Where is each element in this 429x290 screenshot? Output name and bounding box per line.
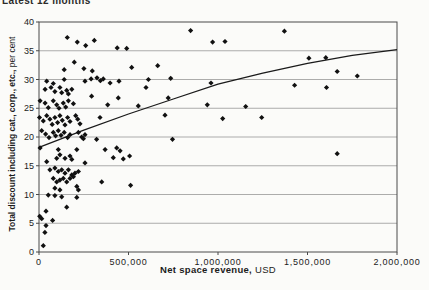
data-point: [105, 102, 110, 107]
data-point: [170, 137, 175, 142]
data-point: [71, 101, 76, 106]
data-point: [92, 38, 97, 43]
data-point: [89, 76, 94, 81]
data-point: [74, 147, 79, 152]
data-point: [46, 105, 51, 110]
data-point: [65, 35, 70, 40]
data-point: [118, 148, 123, 153]
y-tick-label: 5: [29, 218, 34, 228]
y-tick-label: 0: [29, 247, 34, 257]
data-point: [114, 145, 119, 150]
data-point: [94, 137, 99, 142]
data-point: [136, 103, 141, 108]
data-point: [62, 77, 67, 82]
data-point: [81, 66, 86, 71]
data-point: [41, 118, 46, 123]
data-point: [47, 117, 52, 122]
data-point: [116, 95, 121, 100]
data-point: [69, 87, 74, 92]
data-point: [48, 85, 53, 90]
data-point: [60, 118, 65, 123]
data-point: [282, 29, 287, 34]
data-point: [220, 116, 225, 121]
data-point: [52, 193, 57, 198]
data-point: [61, 101, 66, 106]
data-point: [335, 69, 340, 74]
data-point: [121, 156, 126, 161]
data-point: [89, 94, 94, 99]
data-point: [38, 98, 43, 103]
data-point: [97, 115, 102, 120]
data-point: [66, 167, 71, 172]
y-tick-label: 40: [24, 17, 34, 27]
data-point: [77, 121, 82, 126]
data-point: [56, 147, 61, 152]
data-point: [62, 156, 67, 161]
data-point: [66, 98, 71, 103]
data-point: [115, 45, 120, 50]
x-axis-label-bold: Net space revenue,: [160, 264, 252, 275]
data-point: [306, 56, 311, 61]
y-tick-label: 15: [24, 161, 34, 171]
data-point: [54, 156, 59, 161]
data-point: [46, 193, 51, 198]
trend-line: [39, 50, 397, 148]
data-point: [43, 101, 48, 106]
data-point: [59, 90, 64, 95]
data-point: [72, 60, 77, 65]
data-point: [42, 230, 47, 235]
data-point: [124, 46, 129, 51]
data-point: [52, 186, 57, 191]
data-point: [111, 155, 116, 160]
data-point: [59, 194, 64, 199]
y-tick-label: 30: [24, 75, 34, 85]
data-point: [51, 176, 56, 181]
data-point: [52, 115, 57, 120]
data-point: [39, 128, 44, 133]
data-point: [127, 153, 132, 158]
data-point: [74, 195, 79, 200]
y-tick-label: 25: [24, 103, 34, 113]
data-point: [99, 179, 104, 184]
data-point: [57, 187, 62, 192]
data-point: [222, 39, 227, 44]
data-point: [67, 119, 72, 124]
data-point: [63, 105, 68, 110]
y-tick-label: 10: [24, 190, 34, 200]
data-point: [146, 77, 151, 82]
data-point: [188, 28, 193, 33]
data-point: [41, 243, 46, 248]
data-point: [51, 81, 56, 86]
scatter-plot-svg: 05101520253035400500,0001,000,0001,500,0…: [0, 0, 429, 290]
data-point: [44, 113, 49, 118]
data-point: [75, 40, 80, 45]
data-point: [56, 128, 61, 133]
data-point: [129, 65, 134, 70]
chart-figure: Latest 12 months Total discount includin…: [0, 0, 429, 290]
data-point: [90, 68, 95, 73]
data-point: [62, 122, 67, 127]
x-axis-label: Net space revenue, USD: [39, 264, 397, 275]
data-point: [82, 160, 87, 165]
data-point: [65, 115, 70, 120]
data-point: [43, 209, 48, 214]
data-point: [57, 152, 62, 157]
data-point: [62, 171, 67, 176]
data-point: [259, 115, 264, 120]
data-point: [47, 167, 52, 172]
data-point: [46, 135, 51, 140]
data-point: [64, 179, 69, 184]
y-tick-label: 20: [24, 132, 34, 142]
data-point: [57, 113, 62, 118]
data-point: [43, 132, 48, 137]
x-axis-label-regular: USD: [252, 264, 276, 275]
data-point: [292, 83, 297, 88]
data-point: [162, 113, 167, 118]
data-point: [43, 223, 48, 228]
data-point: [76, 130, 81, 135]
data-point: [335, 151, 340, 156]
data-point: [168, 76, 173, 81]
data-point: [155, 63, 160, 68]
data-point: [210, 40, 215, 45]
data-point: [50, 218, 55, 223]
